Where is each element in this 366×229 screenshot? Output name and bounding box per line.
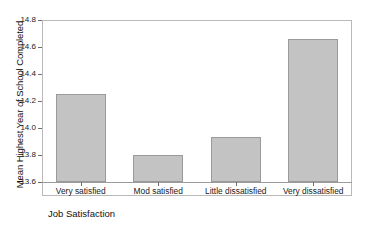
y-tick-mark [38,20,42,21]
x-tick-label: Little dissatisfied [197,186,275,196]
y-tick-mark [38,155,42,156]
bar-chart-figure: Mean Highest Year of School Completed 14… [0,0,366,229]
bar [133,155,183,182]
bar [288,39,338,182]
y-tick-mark [38,74,42,75]
y-tick-label: 14.2 [0,97,36,105]
bar [56,94,106,182]
y-tick-mark [38,47,42,48]
bar [211,137,261,182]
y-tick-mark [38,128,42,129]
x-tick-label: Very satisfied [42,186,120,196]
x-tick-label: Mod satisfied [120,186,198,196]
y-tick-label: 14.8 [0,16,36,24]
y-tick-label: 14.6 [0,43,36,51]
y-tick-label: 13.6 [0,178,36,186]
y-tick-mark [38,101,42,102]
y-tick-label: 14.0 [0,124,36,132]
x-tick-label: Very dissatisfied [275,186,353,196]
plot-data-area [42,20,352,182]
y-tick-label: 13.8 [0,151,36,159]
y-tick-label: 14.4 [0,70,36,78]
axis-baseline [42,182,352,183]
x-axis-title: Job Satisfaction [48,208,115,219]
y-tick-mark [38,182,42,183]
